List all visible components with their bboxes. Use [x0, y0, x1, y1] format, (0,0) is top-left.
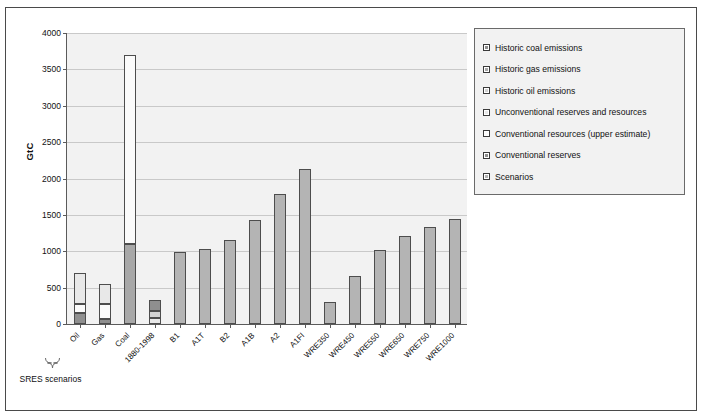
legend-item[interactable]: Scenarios: [483, 166, 684, 188]
legend-swatch-historic-gas: [483, 66, 490, 73]
legend-item-label: Conventional resources (upper estimate): [495, 129, 650, 139]
legend-item[interactable]: Historic coal emissions: [483, 37, 684, 59]
legend-item-label: Historic gas emissions: [495, 64, 580, 74]
legend-swatch-conventional-resources: [483, 130, 490, 137]
legend-item[interactable]: Historic oil emissions: [483, 80, 684, 102]
chart-legend: Historic coal emissionsHistoric gas emis…: [474, 28, 685, 195]
chart-frame: GtC 05001000150020002500300035004000 SRE…: [5, 7, 697, 411]
legend-swatch-conventional-reserves: [483, 152, 490, 159]
legend-item-label: Historic oil emissions: [495, 86, 575, 96]
legend-item[interactable]: Conventional reserves: [483, 145, 684, 167]
legend-swatch-scenarios: [483, 173, 490, 180]
legend-item[interactable]: Conventional resources (upper estimate): [483, 123, 684, 145]
legend-item-label: Historic coal emissions: [495, 43, 582, 53]
legend-swatch-unconventional: [483, 109, 490, 116]
sres-group-label: SRES scenarios: [20, 374, 82, 384]
legend-swatch-historic-coal: [483, 44, 490, 51]
legend-item[interactable]: Unconventional reserves and resources: [483, 102, 684, 124]
legend-item[interactable]: Historic gas emissions: [483, 59, 684, 81]
legend-item-label: Scenarios: [495, 172, 533, 182]
legend-item-label: Conventional reserves: [495, 150, 581, 160]
legend-item-label: Unconventional reserves and resources: [495, 107, 646, 117]
legend-swatch-historic-oil: [483, 87, 490, 94]
plot-area-wrapper: GtC 05001000150020002500300035004000 SRE…: [6, 8, 476, 412]
